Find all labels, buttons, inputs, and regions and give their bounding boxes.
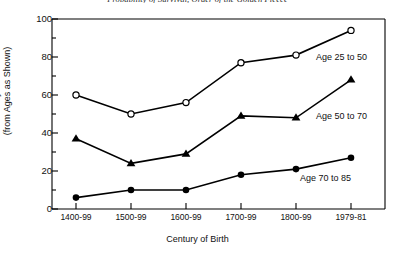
- series-annotation-age-70-to-85: Age 70 to 85: [300, 173, 351, 183]
- x-tick-1700-99: 1700-99: [211, 213, 271, 222]
- x-tick-1800-99: 1800-99: [266, 213, 326, 222]
- series-annotation-age-50-to-70: Age 50 to 70: [316, 111, 367, 121]
- x-axis-tick-labels: 1400-99 1500-99 1600-99 1700-99 1800-99 …: [0, 0, 395, 255]
- x-tick-1979-81: 1979-81: [321, 213, 381, 222]
- series-annotation-age-25-to-50: Age 25 to 50: [316, 52, 367, 62]
- x-tick-1600-99: 1600-99: [156, 213, 216, 222]
- x-tick-1400-99: 1400-99: [46, 213, 106, 222]
- chart-figure: Probability of Survival, Order of the Go…: [0, 0, 395, 255]
- x-axis-label: Century of Birth: [0, 234, 395, 244]
- x-tick-1500-99: 1500-99: [101, 213, 161, 222]
